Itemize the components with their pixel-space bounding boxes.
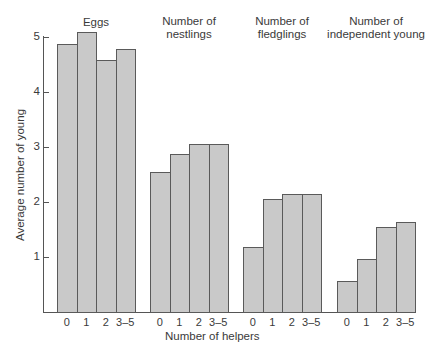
y-tick [43,37,49,38]
bar [57,44,78,313]
bar [376,227,397,313]
y-tick [43,147,49,148]
bar [116,49,137,313]
bar [96,60,117,313]
bar [337,281,358,313]
x-tick-label: 3–5 [113,316,137,328]
bar-chart: 12345 EggsNumber of nestlingsNumber of f… [0,0,435,354]
y-axis-title: Average number of young [14,109,26,241]
x-axis-title: Number of helpers [165,330,260,342]
bar [243,247,264,313]
x-tick-label: 3–5 [299,316,323,328]
bar [209,144,230,313]
x-tick-label: 3–5 [206,316,230,328]
bar [263,199,284,313]
y-axis-line [43,36,44,313]
bar [77,32,98,313]
y-tick-label: 3 [26,140,40,152]
y-tick-label: 4 [26,85,40,97]
y-tick [43,92,49,93]
bar [357,259,378,313]
group-title: Number of independent young [321,15,431,41]
bar [282,194,303,313]
y-tick-label: 5 [26,30,40,42]
bar [189,144,210,313]
bar [150,172,171,313]
bar [302,194,323,313]
y-tick [43,257,49,258]
y-tick-label: 1 [26,250,40,262]
bar [170,154,191,313]
y-tick-label: 2 [26,195,40,207]
x-tick-label: 3–5 [393,316,417,328]
y-tick [43,202,49,203]
bar [396,222,417,313]
